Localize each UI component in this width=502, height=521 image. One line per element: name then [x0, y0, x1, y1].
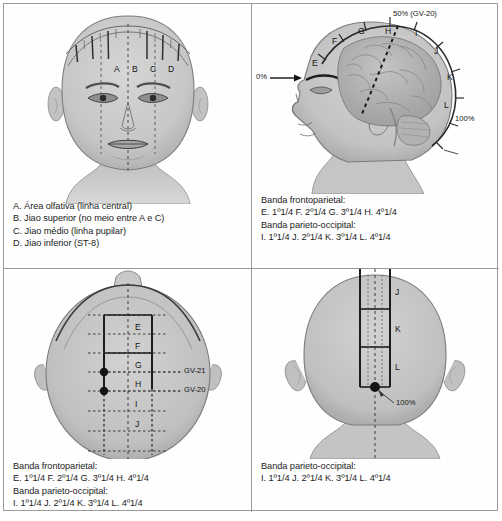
quadrant1-caption: A. Área olfativa (linha central) B. Jiao… — [13, 200, 245, 250]
caption-line: C. Jiao médio (linha pupilar) — [13, 225, 245, 237]
quadrant4-caption: Banda parieto-occipital: I. 1º1/4 J. 2º1… — [261, 460, 493, 506]
caption-line: Banda parieto-occipital: — [261, 219, 493, 231]
superior-head-illustration — [4, 269, 252, 459]
face-label-A: A — [114, 64, 120, 74]
posterior-head-illustration — [252, 269, 499, 459]
face-label-B: B — [132, 64, 138, 74]
caption-line: E. 1º1/4 F. 2º1/4 G. 3º1/4 H. 4º1/4 — [261, 206, 493, 218]
quadrant2-caption: Banda frontoparietal: E. 1º1/4 F. 2º1/4 … — [261, 194, 493, 244]
caption-line: I. 1º1/4 J. 2º1/4 K. 3º1/4 L. 4º1/4 — [261, 472, 493, 484]
superior-label-H: H — [135, 379, 141, 389]
quadrant-superior-head: E F G H I J GV-21 GV-20 Banda frontopari… — [4, 269, 252, 512]
quadrant-frontal-face: A B C D A. Área olfativa (linha central)… — [4, 4, 252, 269]
face-label-D: D — [168, 64, 174, 74]
caption-line: Banda parieto-occipital: — [13, 485, 245, 497]
quadrant3-caption: Banda frontoparietal: E. 1º1/4 F. 2º1/4 … — [13, 460, 245, 506]
lateral-label-K: K — [447, 72, 453, 82]
lateral-label-J: J — [434, 46, 438, 56]
quadrant-grid: A B C D A. Área olfativa (linha central)… — [4, 4, 497, 510]
caption-line: D. Jiao inferior (ST-8) — [13, 237, 245, 249]
superior-label-I: I — [135, 399, 137, 409]
caption-line: Banda parieto-occipital: — [261, 460, 493, 472]
marker-fifty-percent-gv20: 50% (GV-20) — [393, 9, 437, 18]
lateral-label-I: I — [415, 28, 417, 38]
caption-line: B. Jiao superior (no meio entre A e C) — [13, 212, 245, 224]
superior-label-J: J — [135, 419, 139, 429]
caption-line: A. Área olfativa (linha central) — [13, 200, 245, 212]
superior-label-F: F — [135, 341, 140, 351]
lateral-label-E: E — [312, 58, 318, 68]
caption-line: I. 1º1/4 J. 2º1/4 K. 3º1/4 L. 4º1/4 — [13, 497, 245, 509]
caption-line: I. 1º1/4 J. 2º1/4 K. 3º1/4 L. 4º1/4 — [261, 231, 493, 243]
posterior-label-K: K — [395, 324, 401, 334]
posterior-label-L: L — [395, 362, 400, 372]
superior-label-E: E — [135, 322, 141, 332]
lateral-label-L: L — [444, 100, 449, 110]
lateral-label-G: G — [358, 26, 365, 36]
caption-line: Banda frontoparietal: — [261, 194, 493, 206]
marker-hundred-percent: 100% — [455, 114, 474, 123]
caption-line: Banda frontoparietal: — [13, 460, 245, 472]
figure-frame: A B C D A. Área olfativa (linha central)… — [3, 3, 498, 511]
posterior-label-J: J — [395, 287, 399, 297]
lateral-head-illustration — [252, 4, 499, 194]
frontal-face-illustration — [4, 4, 252, 204]
callout-gv21: GV-21 — [184, 366, 206, 375]
superior-label-G: G — [135, 360, 142, 370]
marker-hundred-percent: 100% — [396, 398, 415, 407]
quadrant-posterior-head: J K L 100% Banda parieto-occipital: I. 1… — [252, 269, 499, 512]
caption-line: E. 1º1/4 F. 2º1/4 G. 3º1/4 H. 4º1/4 — [13, 472, 245, 484]
lateral-label-F: F — [332, 36, 337, 46]
callout-gv20: GV-20 — [184, 385, 206, 394]
quadrant-lateral-head: E F G H I J K L 0% 50% (GV-20) 100% Band… — [252, 4, 499, 269]
lateral-label-H: H — [385, 26, 391, 36]
face-label-C: C — [150, 64, 156, 74]
marker-zero-percent: 0% — [256, 72, 267, 81]
